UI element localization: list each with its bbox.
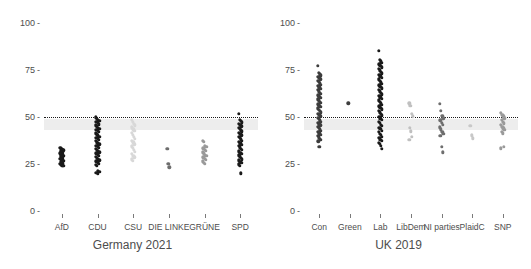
x-tick-label: SPD — [231, 223, 248, 232]
y-tick-label: 100- — [20, 19, 40, 28]
panel-germany: 0-25-50-75-100-AfDCDUCSUDIE LINKEGRÜNESP… — [0, 0, 265, 269]
x-tick-mark — [169, 214, 170, 218]
x-tick-mark — [503, 214, 504, 218]
y-tick-label: 100- — [280, 19, 300, 28]
y-tick-label: 75- — [25, 66, 40, 75]
threshold-line-50 — [44, 117, 258, 118]
panel-title: Germany 2021 — [0, 239, 265, 251]
reference-band — [304, 119, 518, 130]
x-tick-mark — [442, 214, 443, 218]
y-axis: 0-25-50-75-100- — [0, 0, 40, 269]
x-tick-label: CSU — [124, 223, 142, 232]
x-tick-label: SNP — [494, 223, 511, 232]
x-tick-mark — [98, 214, 99, 218]
y-axis: 0-25-50-75-100- — [266, 0, 300, 269]
y-tick-label: 25- — [25, 160, 40, 169]
x-tick-label: PlaidC — [460, 223, 485, 232]
scatter-figure: 0-25-50-75-100-AfDCDUCSUDIE LINKEGRÜNESP… — [0, 0, 531, 269]
x-tick-label: DIE LINKE — [148, 223, 189, 232]
y-tick-label: 50- — [25, 113, 40, 122]
x-tick-label: CDU — [88, 223, 106, 232]
y-tick-label: 25- — [285, 160, 300, 169]
x-tick-mark — [133, 214, 134, 218]
x-tick-label: GRÜNE — [189, 223, 220, 232]
x-tick-label: Green — [338, 223, 362, 232]
panel-uk: 0-25-50-75-100-ConGreenLabLibDemNI parti… — [266, 0, 531, 269]
x-tick-mark — [411, 214, 412, 218]
y-tick-label: 75- — [285, 66, 300, 75]
x-tick-mark — [472, 214, 473, 218]
reference-band — [44, 119, 258, 130]
x-tick-mark — [380, 214, 381, 218]
x-tick-label: AfD — [55, 223, 69, 232]
x-tick-label: NI parties — [423, 223, 459, 232]
x-tick-label: Con — [311, 223, 327, 232]
y-tick-label: 0- — [290, 207, 300, 216]
x-tick-mark — [205, 214, 206, 218]
panel-title: UK 2019 — [266, 239, 531, 251]
x-tick-mark — [240, 214, 241, 218]
x-tick-label: LibDem — [396, 223, 425, 232]
x-tick-mark — [319, 214, 320, 218]
y-tick-label: 0- — [30, 207, 40, 216]
x-tick-mark — [350, 214, 351, 218]
x-tick-mark — [62, 214, 63, 218]
y-tick-label: 50- — [285, 113, 300, 122]
x-tick-label: Lab — [373, 223, 387, 232]
